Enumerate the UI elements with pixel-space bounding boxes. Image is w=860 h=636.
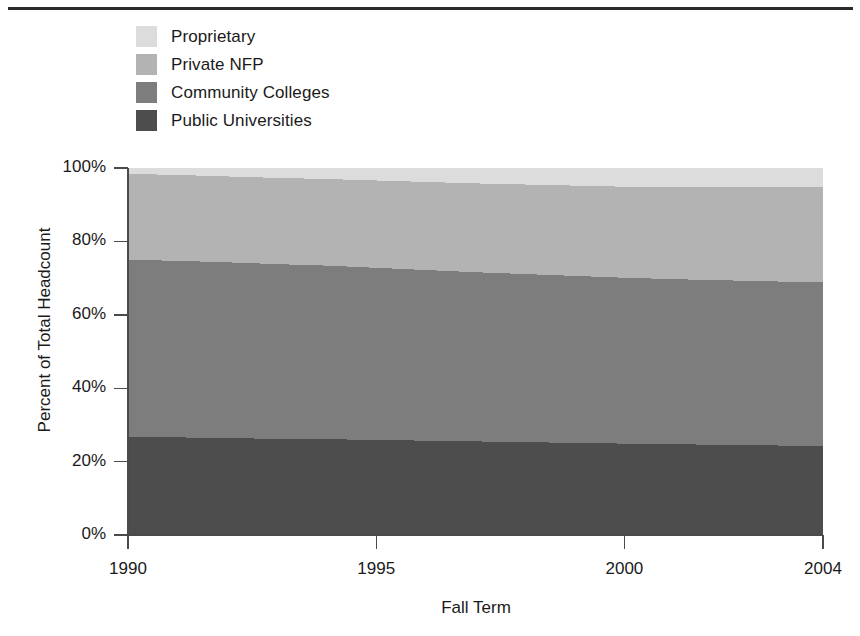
plot-area: 0%20%40%60%80%100% 1990199520002004 Perc… [0, 0, 860, 636]
figure-root: Proprietary Private NFP Community Colleg… [0, 0, 860, 636]
x-axis-title: Fall Term [128, 598, 824, 618]
x-tick-label-3: 2004 [783, 559, 860, 579]
y-tick-label-0: 0% [42, 524, 106, 544]
area-band-public-universities [128, 437, 823, 535]
plot-svg [0, 0, 860, 636]
x-tick-label-1: 1995 [336, 559, 416, 579]
y-tick-label-5: 100% [42, 157, 106, 177]
x-tick-label-2: 2000 [584, 559, 664, 579]
area-band-community-colleges [128, 260, 823, 446]
y-axis-title: Percent of Total Headcount [35, 200, 55, 460]
x-tick-label-0: 1990 [88, 559, 168, 579]
stacked-areas-group [128, 168, 823, 535]
